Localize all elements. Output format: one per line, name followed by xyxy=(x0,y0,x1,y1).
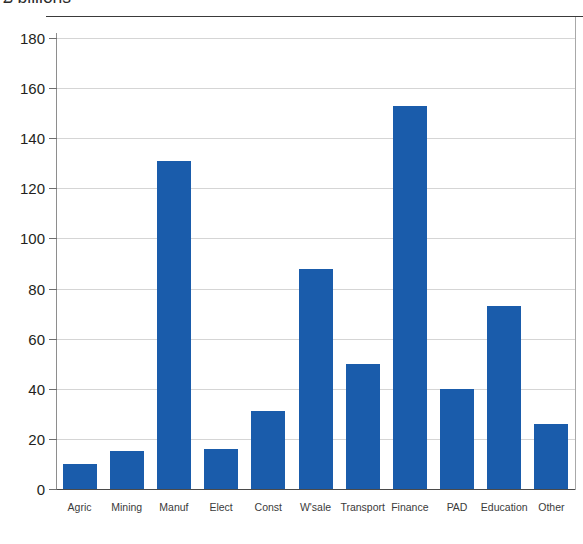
y-axis-tick-mark xyxy=(49,289,57,290)
y-axis-tick-mark xyxy=(49,238,57,239)
bar xyxy=(110,451,144,489)
x-axis-tick-label: Mining xyxy=(103,501,150,513)
x-axis-tick-label: Finance xyxy=(386,501,433,513)
y-axis-tick-label: 180 xyxy=(1,31,45,46)
bar xyxy=(299,269,333,489)
bar xyxy=(440,389,474,489)
y-axis-tick-mark xyxy=(49,489,57,490)
bar xyxy=(157,161,191,489)
x-axis-tick-label: Agric xyxy=(56,501,103,513)
x-axis-tick-label: Education xyxy=(481,501,528,513)
y-axis-tick-label: 120 xyxy=(1,181,45,196)
x-axis-tick-label: Other xyxy=(528,501,575,513)
bar xyxy=(487,306,521,489)
y-axis-tick-label: 160 xyxy=(1,81,45,96)
y-axis-tick-mark xyxy=(49,389,57,390)
y-axis-tick-label: 40 xyxy=(1,382,45,397)
x-axis-tick-label: Manuf xyxy=(150,501,197,513)
x-axis-tick-label: PAD xyxy=(433,501,480,513)
plot-right-border xyxy=(575,17,576,490)
y-axis-tick-label: 60 xyxy=(1,332,45,347)
y-axis-tick-mark xyxy=(49,138,57,139)
y-axis-tick-label: 20 xyxy=(1,432,45,447)
x-axis-tick-label: Elect xyxy=(198,501,245,513)
x-axis-tick-label: Const xyxy=(245,501,292,513)
chart-figure: £ billions 180160140120100806040200 Agri… xyxy=(0,0,583,544)
x-axis-tick-label: W'sale xyxy=(292,501,339,513)
y-axis-tick-label: 140 xyxy=(1,131,45,146)
y-axis-tick-mark xyxy=(49,88,57,89)
bar xyxy=(534,424,568,489)
bar xyxy=(63,464,97,489)
bar-series xyxy=(56,0,575,544)
bar xyxy=(346,364,380,489)
x-axis-tick-labels: AgricMiningManufElectConstW'saleTranspor… xyxy=(56,501,575,521)
x-axis-tick-label: Transport xyxy=(339,501,386,513)
y-axis-tick-label: 100 xyxy=(1,231,45,246)
y-axis-tick-mark xyxy=(49,439,57,440)
bar xyxy=(251,411,285,489)
bar xyxy=(393,106,427,489)
bar xyxy=(204,449,238,489)
y-axis-tick-labels: 180160140120100806040200 xyxy=(0,0,45,544)
y-axis-tick-label: 0 xyxy=(1,482,45,497)
y-axis-tick-label: 80 xyxy=(1,282,45,297)
y-axis-tick-mark xyxy=(49,188,57,189)
y-axis-tick-mark xyxy=(49,339,57,340)
y-axis-tick-mark xyxy=(49,38,57,39)
